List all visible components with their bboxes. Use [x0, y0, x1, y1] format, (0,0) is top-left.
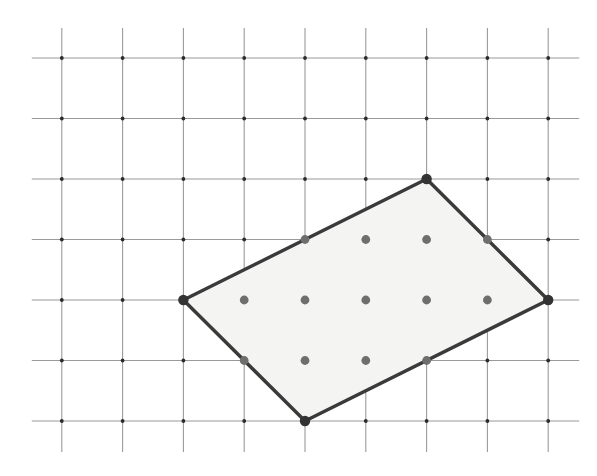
grid-node-dot — [60, 177, 64, 181]
grid-node-dot — [60, 117, 64, 121]
grid-node-dot — [546, 359, 550, 363]
grid-node-dot — [546, 419, 550, 423]
grid-node-dot — [60, 419, 64, 423]
grid-node-dot — [546, 117, 550, 121]
grid-node-dot — [60, 238, 64, 242]
lattice-marker-dot — [301, 356, 310, 365]
grid-node-dot — [486, 177, 490, 181]
grid-node-dot — [60, 56, 64, 60]
grid-node-dot — [60, 359, 64, 363]
grid-node-dot — [364, 56, 368, 60]
grid-node-dot — [121, 359, 125, 363]
lattice-marker-dot — [483, 296, 492, 305]
grid-node-dot — [303, 56, 307, 60]
lattice-marker-dot — [361, 356, 370, 365]
lattice-marker-dot — [361, 235, 370, 244]
grid-node-dot — [364, 419, 368, 423]
grid-node-dot — [182, 56, 186, 60]
polygon-vertex-dot — [300, 416, 310, 426]
polygon-vertex-dot — [178, 295, 188, 305]
grid-node-dot — [425, 117, 429, 121]
lattice-marker-dot — [301, 296, 310, 305]
grid-node-dot — [546, 238, 550, 242]
polygon-vertex-dot — [421, 174, 431, 184]
grid-node-dot — [486, 359, 490, 363]
lattice-marker-dot — [422, 296, 431, 305]
grid-node-dot — [425, 419, 429, 423]
grid-node-dot — [121, 298, 125, 302]
grid-node-dot — [242, 419, 246, 423]
grid-node-dot — [242, 56, 246, 60]
lattice-marker-dot — [483, 235, 492, 244]
lattice-marker-dot — [422, 356, 431, 365]
grid-node-dot — [121, 177, 125, 181]
lattice-grid-diagram — [0, 0, 597, 476]
grid-node-dot — [546, 56, 550, 60]
grid-node-dot — [486, 419, 490, 423]
grid-node-dot — [364, 117, 368, 121]
grid-node-dot — [60, 298, 64, 302]
grid-node-dot — [242, 117, 246, 121]
grid-node-dot — [121, 56, 125, 60]
grid-node-dot — [486, 56, 490, 60]
grid-node-dot — [121, 117, 125, 121]
grid-node-dot — [182, 117, 186, 121]
grid-node-dot — [303, 177, 307, 181]
lattice-marker-dot — [240, 356, 249, 365]
lattice-marker-dot — [240, 296, 249, 305]
lattice-marker-dot — [301, 235, 310, 244]
grid-node-dot — [303, 117, 307, 121]
grid-node-dot — [242, 238, 246, 242]
grid-node-dot — [182, 177, 186, 181]
grid-node-dot — [425, 56, 429, 60]
grid-node-dot — [486, 117, 490, 121]
grid-node-dot — [121, 419, 125, 423]
grid-node-dot — [546, 177, 550, 181]
grid-node-dot — [242, 177, 246, 181]
grid-node-dot — [182, 359, 186, 363]
grid-node-dot — [121, 238, 125, 242]
grid-node-dot — [364, 177, 368, 181]
grid-node-dot — [182, 419, 186, 423]
lattice-marker-dot — [422, 235, 431, 244]
polygon-vertex-dot — [543, 295, 553, 305]
figure-root — [0, 0, 597, 476]
grid-node-dot — [182, 238, 186, 242]
lattice-marker-dot — [361, 296, 370, 305]
